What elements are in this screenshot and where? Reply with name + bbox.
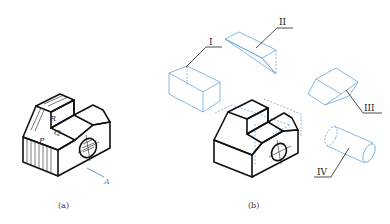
view-arrow-icon (87, 168, 104, 177)
face-label-q: Q (54, 128, 61, 137)
part-label-i: I (209, 37, 213, 47)
figure-b-assembled-part (214, 99, 301, 177)
caption-b: (b) (248, 201, 259, 210)
part-label-iv: IV (317, 167, 328, 177)
technical-drawing: P Q R A (a) I II III IV (0, 0, 390, 224)
leader-ii (256, 28, 293, 48)
face-label-p: P (38, 136, 45, 145)
part-iv-cylinder (322, 125, 378, 164)
part-label-iii: III (364, 103, 375, 113)
leader-i (186, 47, 222, 67)
part-label-ii: II (279, 17, 287, 27)
caption-a: (a) (58, 201, 69, 210)
figure-a-isometric-part: P Q R A (23, 94, 110, 186)
part-ii-wedge (225, 32, 276, 74)
part-iii-prism (308, 68, 358, 105)
face-label-r: R (49, 114, 56, 123)
view-arrow-label: A (103, 177, 110, 186)
part-i-block (169, 66, 220, 112)
